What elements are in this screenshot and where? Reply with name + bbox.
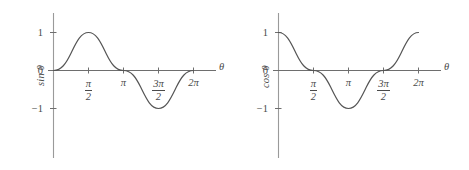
- cosine-x-tick-label-pi: π: [340, 78, 358, 89]
- cosine-y-tick-label-0: 0: [254, 66, 268, 77]
- cosine-x-axis-name: θ: [444, 62, 449, 73]
- sine-plot-panel: sin θ 1 0 −1 π 2 π 3π 2 2π θ: [0, 0, 234, 170]
- cosine-y-tick-label-neg1: −1: [251, 104, 268, 115]
- cosine-plot-panel: cos θ 1 0 −1 π 2 π 3π 2 2π θ: [234, 0, 468, 170]
- fraction-pi-over-2: π 2: [85, 78, 92, 102]
- fraction-pi-over-2: π 2: [310, 78, 317, 102]
- fraction-3pi-over-2: 3π 2: [377, 78, 390, 102]
- fraction-3pi-over-2: 3π 2: [152, 78, 165, 102]
- sine-x-tick-label-2pi: 2π: [185, 78, 203, 89]
- cosine-x-tick-label-pi-over-2: π 2: [304, 78, 324, 102]
- sine-x-tick-label-3pi-over-2: 3π 2: [148, 78, 170, 102]
- sine-y-tick-label-1: 1: [29, 28, 43, 39]
- sine-x-tick-label-pi: π: [115, 78, 133, 89]
- sine-y-tick-label-0: 0: [29, 66, 43, 77]
- sine-x-tick-label-pi-over-2: π 2: [79, 78, 99, 102]
- trig-functions-figure: sin θ 1 0 −1 π 2 π 3π 2 2π θ: [0, 0, 469, 170]
- cosine-x-tick-label-3pi-over-2: 3π 2: [373, 78, 395, 102]
- cosine-y-tick-label-1: 1: [254, 28, 268, 39]
- sine-x-axis-name: θ: [219, 62, 224, 73]
- sine-y-tick-label-neg1: −1: [26, 104, 43, 115]
- cosine-x-tick-label-2pi: 2π: [410, 78, 428, 89]
